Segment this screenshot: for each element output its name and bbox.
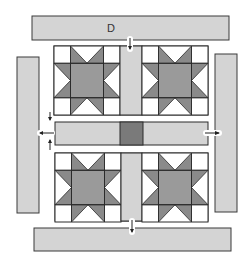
block-row-top bbox=[54, 46, 208, 115]
arrow-left-up-icon bbox=[48, 139, 52, 150]
arrow-bottom-down-icon bbox=[129, 218, 135, 235]
star-block-bottom-left bbox=[55, 153, 121, 222]
arrow-top-down-icon bbox=[127, 36, 133, 52]
arrow-right-right-icon bbox=[203, 130, 222, 136]
border-top-label: D bbox=[107, 22, 115, 34]
star-block-bottom-right bbox=[142, 153, 208, 222]
sashing-horizontal-center bbox=[55, 122, 208, 145]
arrow-left-left-icon bbox=[37, 130, 55, 136]
quilt-assembly-diagram: D bbox=[0, 0, 249, 264]
arrow-left-down-icon bbox=[48, 112, 52, 121]
block-row-bottom bbox=[55, 153, 208, 222]
border-left bbox=[17, 57, 39, 213]
star-block-top-left bbox=[54, 46, 120, 115]
star-block-top-right bbox=[142, 46, 208, 115]
sashing-vertical-top bbox=[120, 46, 142, 115]
cornerstone bbox=[120, 122, 143, 145]
sashing-vertical-bottom bbox=[121, 153, 142, 221]
